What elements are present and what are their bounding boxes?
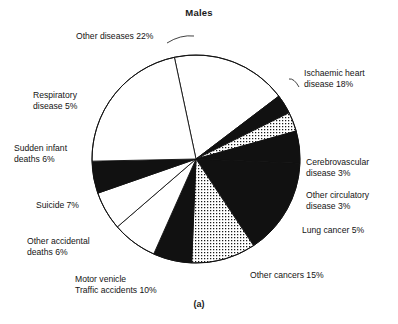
pie-chart-figure: · · · · · · · · · · Males Ischaemic hear…	[0, 0, 398, 324]
slice-label-respiratory-disease: Respiratory disease 5%	[33, 90, 77, 111]
slice-label-lung-cancer: Lung cancer 5%	[302, 225, 364, 236]
figure-caption: (a)	[0, 299, 398, 309]
slice-label-motor-vehicle-traffic-accidents: Motor venicle Traffic accidents 10%	[75, 274, 157, 295]
slice-label-other-cancers: Other cancers 15%	[250, 270, 324, 281]
leader-line-other-diseases	[167, 36, 194, 43]
slice-label-cerebrovascular-disease: Cerebrovascular disease 3%	[306, 157, 369, 178]
slice-label-other-diseases: Other diseases 22%	[76, 31, 153, 42]
slice-label-suicide: Suicide 7%	[36, 200, 79, 211]
leader-line-ischaemic-heart-disease	[289, 79, 299, 87]
pie-slices	[92, 55, 300, 263]
slice-label-other-circulatory-disease: Other circulatory disease 3%	[306, 190, 369, 211]
slice-label-sudden-infant-deaths: Sudden infant deaths 6%	[14, 143, 67, 164]
slice-label-other-accidental-deaths: Other accidental deaths 6%	[27, 236, 90, 257]
slice-label-ischaemic-heart-disease: Ischaemic heart disease 18%	[304, 68, 365, 89]
